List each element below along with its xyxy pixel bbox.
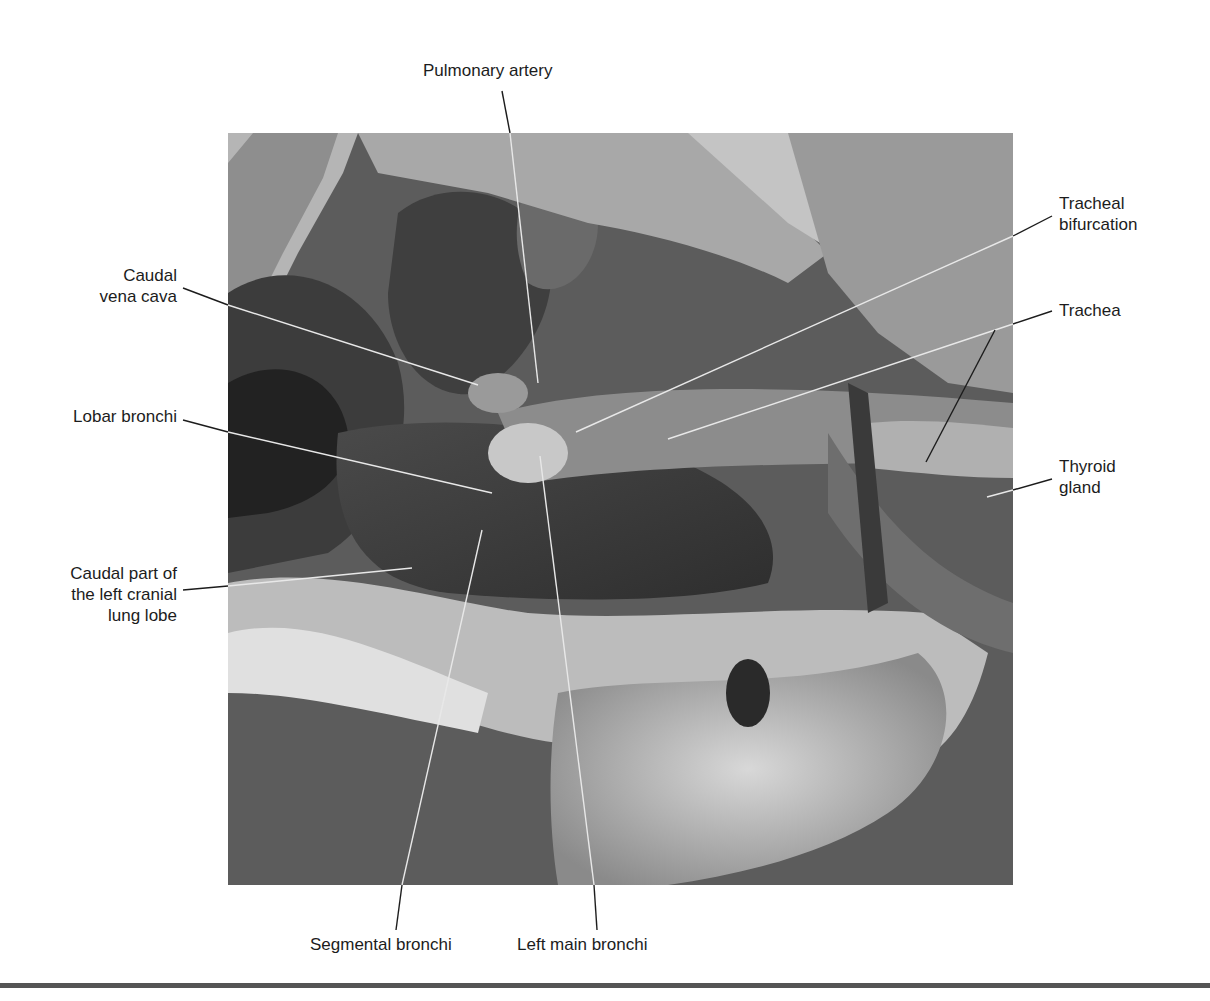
label-lobar-bronchi: Lobar bronchi xyxy=(73,406,177,427)
label-thyroid-gland: Thyroid gland xyxy=(1059,456,1116,498)
label-pulmonary-artery: Pulmonary artery xyxy=(423,60,552,81)
leader-tracheal-bifurcation-outer xyxy=(1013,216,1052,236)
leader-trachea-outer xyxy=(1013,311,1052,324)
leader-segmental-bronchi-outer xyxy=(396,885,402,930)
leader-caudal-vena-cava-inner xyxy=(228,305,478,385)
label-left-main-bronchi: Left main bronchi xyxy=(517,934,647,955)
leader-thyroid-gland-outer xyxy=(1013,479,1052,490)
leader-pulmonary-artery-outer xyxy=(502,91,510,133)
leader-lobar-bronchi-inner xyxy=(228,432,492,493)
leader-lobar-bronchi-outer xyxy=(183,420,228,432)
leader-thyroid-gland-inner xyxy=(987,490,1013,497)
anatomy-figure: Pulmonary artery Tracheal bifurcation Ca… xyxy=(0,0,1210,1001)
leader-left-main-bronchi-outer xyxy=(594,885,597,930)
leader-tracheal-bifurcation-inner xyxy=(576,236,1013,432)
label-tracheal-bifurcation: Tracheal bifurcation xyxy=(1059,193,1137,235)
leader-left-cranial-lobe-outer xyxy=(183,586,228,590)
leader-segmental-bronchi-inner xyxy=(402,530,482,885)
leader-left-main-bronchi-inner xyxy=(540,456,594,885)
bottom-divider-rule xyxy=(0,983,1210,988)
leader-pulmonary-artery-inner xyxy=(510,133,538,383)
leader-left-cranial-lobe-inner xyxy=(228,568,412,586)
label-segmental-bronchi: Segmental bronchi xyxy=(310,934,452,955)
leader-trachea-inner xyxy=(668,324,1013,439)
label-caudal-vena-cava: Caudal vena cava xyxy=(100,265,178,307)
leader-lines xyxy=(0,0,1210,1001)
label-caudal-part-left-cranial-lung-lobe: Caudal part of the left cranial lung lob… xyxy=(70,563,177,626)
leader-caudal-vena-cava-outer xyxy=(183,288,228,305)
label-trachea: Trachea xyxy=(1059,300,1121,321)
